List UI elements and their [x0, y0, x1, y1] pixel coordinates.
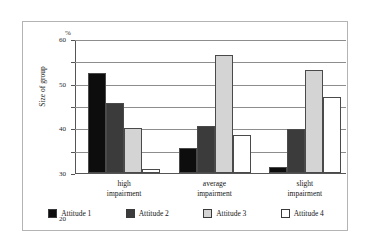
bar [179, 148, 197, 173]
x-axis-group-label-line: impairment [79, 189, 169, 199]
y-tick-label: 40 [59, 125, 66, 133]
y-tick-mark: 20 [71, 129, 75, 130]
chart-frame: % Size of group 0102030405060 highimpair… [22, 21, 348, 231]
plot-area: 0102030405060 [75, 40, 323, 174]
x-axis-group-label-line: impairment [170, 189, 260, 199]
legend-swatch-icon [48, 209, 57, 218]
gridline [75, 62, 346, 63]
bar [287, 129, 305, 173]
x-axis-group-label: averageimpairment [170, 179, 260, 198]
legend-swatch-icon [203, 209, 212, 218]
y-tick-mark: 50 [71, 62, 75, 63]
bar [124, 128, 142, 173]
legend-swatch-icon [126, 209, 135, 218]
y-tick-mark: 60 [71, 40, 75, 41]
y-tick-label: 30 [59, 170, 66, 178]
y-tick-mark: 40 [71, 85, 75, 86]
y-tick-label: 60 [59, 36, 66, 44]
legend-item[interactable]: Attitude 2 [126, 209, 169, 218]
chart-legend: Attitude 1Attitude 2Attitude 3Attitude 4 [31, 203, 341, 223]
x-axis-line [75, 173, 346, 174]
bar [215, 55, 233, 173]
x-axis-group-label-line: slight [260, 179, 350, 189]
bar [197, 126, 215, 173]
legend-item[interactable]: Attitude 1 [48, 209, 91, 218]
x-axis-group-label-line: impairment [260, 189, 350, 199]
legend-label: Attitude 3 [216, 209, 246, 218]
chart-page: % Size of group 0102030405060 highimpair… [0, 0, 367, 244]
legend-label: Attitude 4 [294, 209, 324, 218]
x-axis-group-label-line: average [170, 179, 260, 189]
legend-swatch-icon [281, 209, 290, 218]
legend-item[interactable]: Attitude 4 [281, 209, 324, 218]
bar [323, 97, 341, 173]
x-axis-group-label-line: high [79, 179, 169, 189]
y-tick-mark: 30 [71, 107, 75, 108]
bar [142, 169, 160, 173]
y-axis-title: Size of group [38, 52, 47, 122]
x-axis-group-label: slightimpairment [260, 179, 350, 198]
legend-item[interactable]: Attitude 3 [203, 209, 246, 218]
bar [305, 70, 323, 173]
legend-label: Attitude 2 [139, 209, 169, 218]
bar [106, 103, 124, 173]
y-tick-mark: 10 [71, 152, 75, 153]
bar [233, 135, 251, 173]
bar [269, 167, 287, 173]
x-axis-group-label: highimpairment [79, 179, 169, 198]
y-tick-mark: 0 [71, 174, 75, 175]
legend-label: Attitude 1 [61, 209, 91, 218]
y-tick-label: 50 [59, 81, 66, 89]
gridline [75, 40, 346, 41]
bar [88, 73, 106, 174]
